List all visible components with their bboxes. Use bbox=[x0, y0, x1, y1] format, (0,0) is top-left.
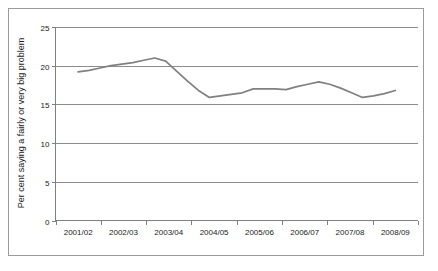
x-tick-label: 2005/06 bbox=[245, 228, 274, 237]
x-tick-label: 2006/07 bbox=[290, 228, 319, 237]
y-tick-label: 10 bbox=[41, 140, 50, 149]
y-axis-ticks-group: 0510152025 bbox=[41, 24, 56, 227]
y-tick-label: 25 bbox=[41, 24, 50, 33]
y-tick-label: 15 bbox=[41, 101, 50, 110]
y-axis-title: Per cent saying a fairly or very big pro… bbox=[16, 38, 26, 209]
y-tick-label: 20 bbox=[41, 63, 50, 72]
figure-root: 0510152025 2001/022002/032003/042004/052… bbox=[0, 0, 438, 271]
x-tick-label: 2001/02 bbox=[64, 228, 93, 237]
gridlines-group bbox=[56, 28, 419, 183]
x-tick-label: 2002/03 bbox=[109, 228, 138, 237]
y-tick-label: 0 bbox=[45, 218, 50, 227]
x-tick-label: 2004/05 bbox=[200, 228, 229, 237]
y-tick-label: 5 bbox=[45, 179, 50, 188]
x-axis-ticks-group: 2001/022002/032003/042004/052005/062006/… bbox=[57, 221, 419, 237]
x-tick-label: 2008/09 bbox=[381, 228, 410, 237]
x-tick-label: 2007/08 bbox=[336, 228, 365, 237]
line-chart: 0510152025 2001/022002/032003/042004/052… bbox=[0, 0, 438, 271]
data-series-line bbox=[78, 58, 395, 97]
x-tick-label: 2003/04 bbox=[154, 228, 183, 237]
